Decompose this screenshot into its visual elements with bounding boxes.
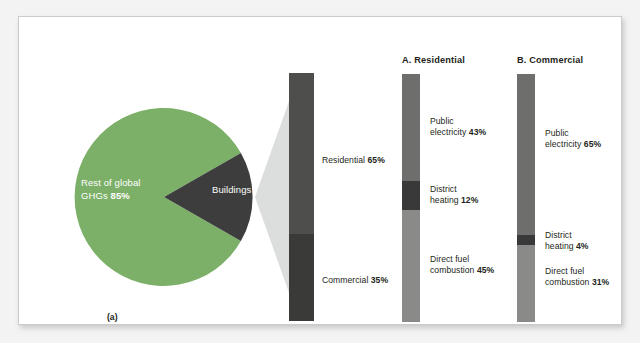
callout-res-district-heating: District heating 12%	[430, 184, 478, 206]
bar-segment-com-district-heating	[517, 235, 535, 245]
callout-com-district-heating: District heating 4%	[545, 230, 589, 252]
callout-res-district-heating-value: 12%	[461, 195, 478, 205]
bar-segment-res-direct-fuel-combustion	[402, 210, 420, 322]
callout-com-public-electricity: Public electricity 65%	[545, 128, 601, 150]
figure-canvas: Rest of globalGHGs 85% Buildings 15% Res…	[0, 0, 640, 343]
bar-segment-residential	[289, 73, 314, 234]
callout-residential: Residential 65%	[322, 155, 385, 166]
callout-commercial: Commercial 35%	[322, 275, 388, 286]
callout-com-direct-fuel-label: Direct fuel combustion	[545, 266, 592, 287]
callout-com-district-heating-value: 4%	[576, 241, 589, 251]
callout-com-public-electricity-value: 65%	[584, 139, 601, 149]
bar-residential-breakdown	[402, 74, 420, 322]
pie-label-rest-of-global-ghgs: Rest of globalGHGs 85%	[81, 177, 173, 202]
callout-residential-label: Residential	[322, 155, 368, 165]
column-title-commercial: B. Commercial	[517, 55, 583, 65]
callout-com-district-heating-label: District heating	[545, 230, 576, 251]
callout-commercial-value: 35%	[371, 275, 388, 285]
bar-segment-res-district-heating	[402, 181, 420, 211]
callout-res-public-electricity: Public electricity 43%	[430, 116, 486, 138]
figure-caption: (a)	[107, 312, 118, 322]
column-title-residential: A. Residential	[402, 55, 465, 65]
callout-res-direct-fuel-value: 45%	[477, 265, 494, 275]
callout-com-public-electricity-label: Public electricity	[545, 128, 584, 149]
bar-segment-com-public-electricity	[517, 74, 535, 235]
pie-label-rest-line2: GHGs	[81, 190, 111, 201]
pie-label-buildings-text: Buildings	[212, 184, 254, 195]
callout-res-public-electricity-label: Public electricity	[430, 116, 469, 137]
callout-com-direct-fuel-combustion: Direct fuel combustion 31%	[545, 266, 609, 288]
bar-segment-com-direct-fuel-combustion	[517, 245, 535, 322]
bar-commercial-breakdown	[517, 74, 535, 322]
callout-com-direct-fuel-value: 31%	[592, 277, 609, 287]
pie-value-rest: 85%	[111, 190, 130, 201]
callout-commercial-label: Commercial	[322, 275, 371, 285]
figure-panel: Rest of globalGHGs 85% Buildings 15% Res…	[18, 16, 622, 325]
bar-buildings-split	[289, 73, 314, 321]
callout-res-public-electricity-value: 43%	[469, 127, 486, 137]
bar-segment-commercial	[289, 234, 314, 321]
pie-label-rest-line1: Rest of global	[81, 177, 141, 188]
callout-res-district-heating-label: District heating	[430, 184, 461, 205]
callout-res-direct-fuel-label: Direct fuel combustion	[430, 254, 477, 275]
callout-res-direct-fuel-combustion: Direct fuel combustion 45%	[430, 254, 494, 276]
bar-segment-res-public-electricity	[402, 74, 420, 181]
callout-residential-value: 65%	[368, 155, 385, 165]
